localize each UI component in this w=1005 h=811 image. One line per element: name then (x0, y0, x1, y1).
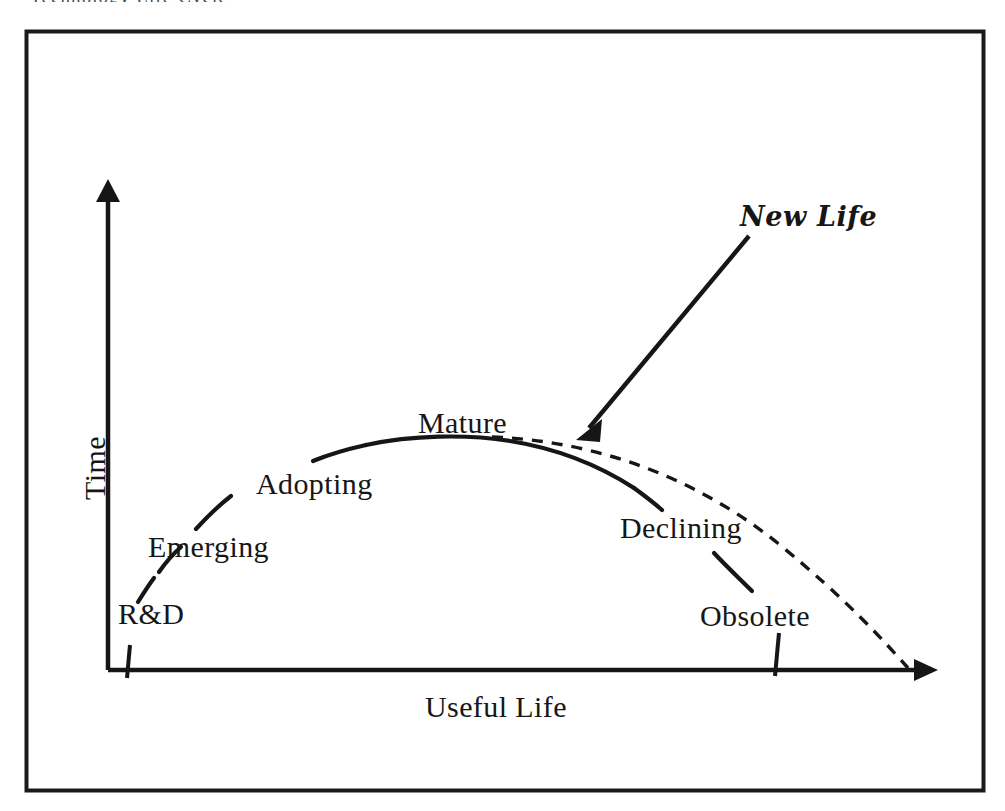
stage-label-obsolete: Obsolete (700, 601, 810, 631)
x-axis-label: Useful Life (425, 692, 567, 722)
tick-rd (127, 645, 130, 678)
x-axis-arrowhead (914, 659, 938, 681)
new-life-arrowhead (576, 419, 602, 442)
stage-label-declining: Declining (620, 513, 742, 543)
curve-segment-declining-upper (634, 488, 662, 510)
new-life-arrow-shaft (589, 236, 749, 428)
y-axis-label: Time (80, 436, 110, 500)
figure-root: Technology Life Cycle (0, 0, 1005, 811)
stage-label-emerging: Emerging (148, 532, 269, 562)
curve-new-life-dashed (492, 437, 908, 668)
curve-segment-emerging-upper (196, 496, 231, 529)
curve-segment-declining-lower (714, 553, 752, 591)
stage-label-mature: Mature (418, 408, 507, 438)
new-life-annotation-label: New Life (740, 203, 877, 230)
stage-label-rd: R&D (118, 599, 184, 629)
curve-segment-mature-crest (366, 436, 634, 488)
stage-label-adopting: Adopting (256, 469, 373, 499)
curve-segment-adopting-upper (313, 445, 366, 461)
y-axis-arrowhead (96, 179, 120, 202)
